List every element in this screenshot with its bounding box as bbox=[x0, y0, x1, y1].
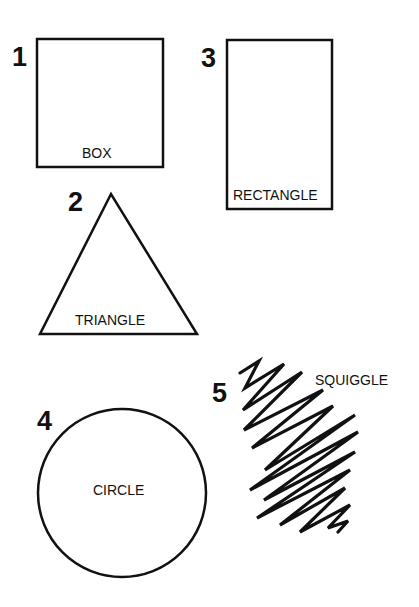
shape-number-1: 1 bbox=[12, 44, 27, 71]
shape-number-4: 4 bbox=[37, 408, 52, 435]
shape-number-5: 5 bbox=[212, 380, 227, 407]
shape-label-box: BOX bbox=[82, 146, 112, 160]
shape-number-3: 3 bbox=[201, 45, 216, 72]
shape-label-triangle: TRIANGLE bbox=[75, 313, 145, 327]
shape-label-circle: CIRCLE bbox=[93, 483, 144, 497]
shape-number-2: 2 bbox=[68, 189, 83, 216]
shape-label-rectangle: RECTANGLE bbox=[233, 188, 318, 202]
rectangle-shape bbox=[227, 40, 332, 209]
shape-label-squiggle: SQUIGGLE bbox=[315, 373, 388, 387]
shapes-canvas bbox=[0, 0, 419, 607]
